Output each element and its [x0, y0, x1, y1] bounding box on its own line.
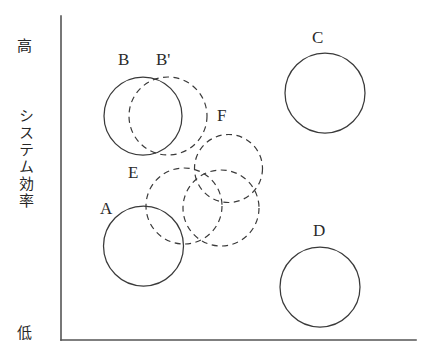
axis-label-efficiency: システム効率	[16, 108, 33, 210]
circle-D[interactable]	[280, 247, 360, 327]
circle-F[interactable]	[195, 135, 263, 203]
circle-label-B-prime: B'	[156, 50, 170, 70]
positioning-diagram: 高 システム効率 低 A B B' C D E F	[0, 0, 423, 356]
axis-label-high: 高	[17, 34, 32, 55]
circle-label-F: F	[217, 106, 226, 126]
dashed-circles-group	[129, 77, 263, 246]
circle-label-A: A	[100, 199, 112, 219]
axis-label-low: 低	[17, 321, 32, 342]
circle-label-C: C	[312, 28, 323, 48]
circle-B[interactable]	[104, 77, 182, 155]
solid-circles-group	[104, 53, 366, 327]
circle-E[interactable]	[146, 168, 222, 244]
circle-A[interactable]	[104, 206, 184, 286]
circle-label-D: D	[313, 221, 325, 241]
circle-B-prime[interactable]	[129, 77, 207, 155]
circle-label-E: E	[128, 163, 138, 183]
circle-G[interactable]	[183, 170, 259, 246]
circle-label-B: B	[118, 50, 129, 70]
axes-group	[61, 16, 416, 340]
circle-C[interactable]	[285, 53, 365, 133]
diagram-canvas	[0, 0, 423, 356]
